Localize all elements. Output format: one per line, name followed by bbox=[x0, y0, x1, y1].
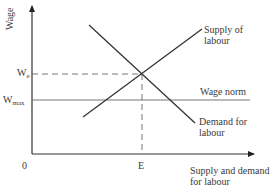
x-axis-label: Supply and demand for labour bbox=[190, 165, 269, 187]
e-label: E bbox=[138, 160, 144, 171]
y-axis-label: Wage bbox=[4, 7, 15, 30]
supply-curve bbox=[83, 29, 202, 117]
wage-norm-label: Wage norm bbox=[200, 86, 246, 97]
demand-label: Demand for labour bbox=[199, 116, 247, 138]
wmax-label: Wmax bbox=[3, 94, 25, 109]
supply-label: Supply of labour bbox=[204, 24, 243, 46]
we-label: We bbox=[17, 67, 30, 82]
origin-label: 0 bbox=[22, 160, 27, 171]
